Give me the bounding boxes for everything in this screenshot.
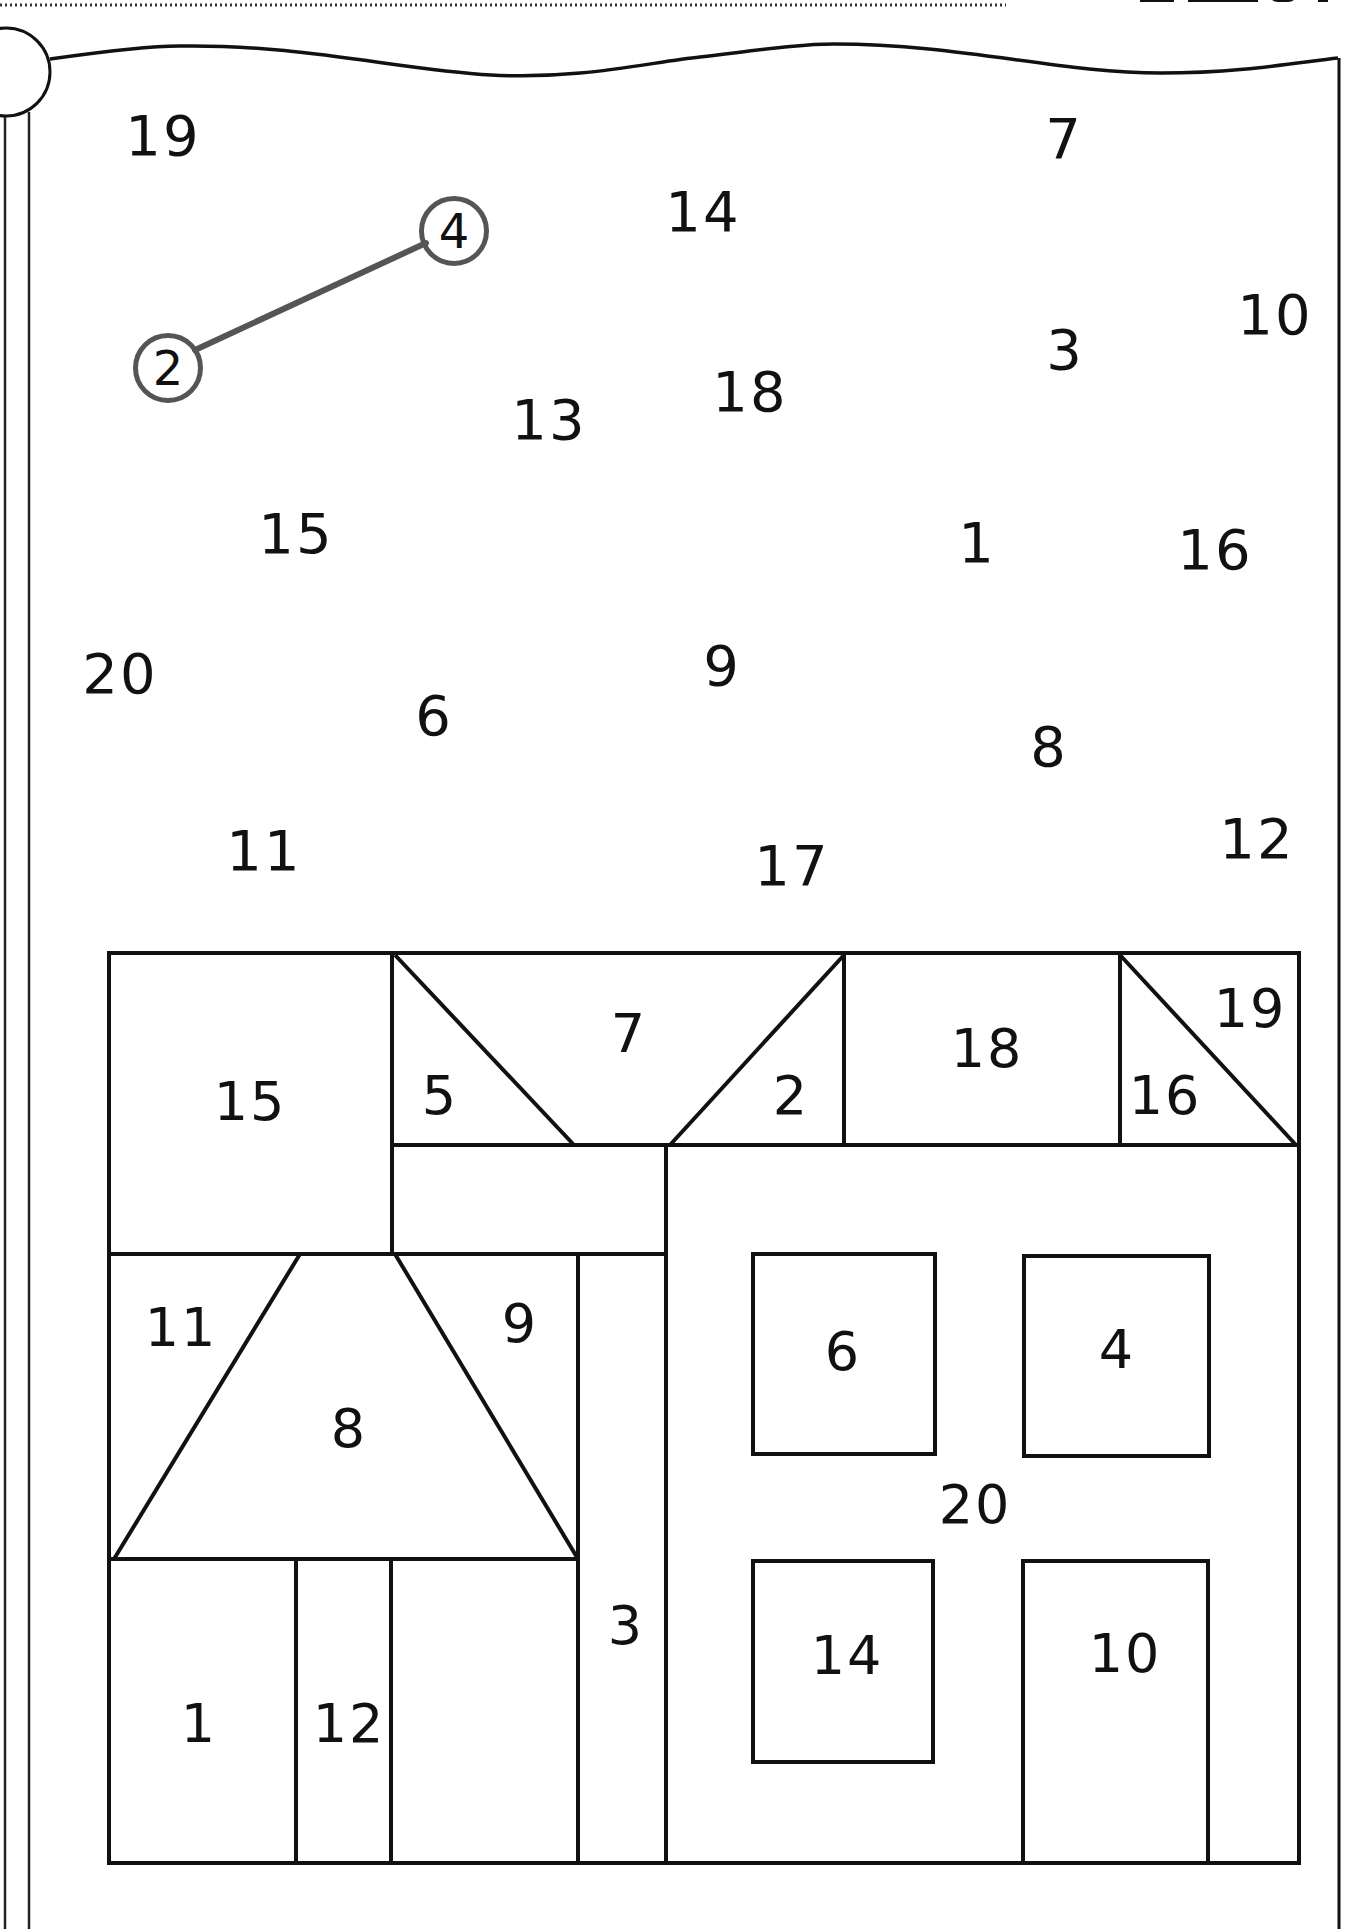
dot-number[interactable]: 3 [1046, 322, 1084, 378]
house-region[interactable]: 5 [422, 1069, 458, 1123]
dot-number[interactable]: 16 [1177, 522, 1252, 578]
house-region[interactable]: 9 [502, 1297, 538, 1351]
dot-number[interactable]: 11 [226, 823, 301, 879]
house-region[interactable]: 4 [1099, 1323, 1135, 1377]
dot-number[interactable]: 14 [665, 184, 740, 240]
dot-number[interactable]: 1 [958, 515, 996, 571]
dot-number[interactable]: 12 [1219, 811, 1294, 867]
dot-number[interactable]: 17 [754, 838, 829, 894]
example-connecting-line [195, 243, 426, 350]
dot-number[interactable]: 20 [82, 646, 157, 702]
house-region[interactable]: 2 [773, 1069, 809, 1123]
worksheet-page: 19 7 14 10 3 18 13 15 1 16 20 9 6 8 11 1… [0, 0, 1357, 1929]
dot-number[interactable]: 13 [511, 392, 586, 448]
house-region[interactable]: 8 [331, 1402, 367, 1456]
dot-number[interactable]: 10 [1237, 287, 1312, 343]
roof-diagonal-2 [670, 955, 844, 1145]
house-region[interactable]: 18 [951, 1022, 1024, 1076]
dot-number[interactable]: 7 [1045, 111, 1083, 167]
house-region[interactable]: 11 [145, 1301, 218, 1355]
trapezoid-right-side [395, 1254, 578, 1559]
circled-number-label: 4 [439, 207, 470, 255]
circled-number-2[interactable]: 2 [133, 333, 203, 403]
house-region[interactable]: 19 [1214, 982, 1287, 1036]
dot-number[interactable]: 19 [125, 108, 200, 164]
dot-number[interactable]: 9 [703, 638, 741, 694]
house-region[interactable]: 15 [214, 1075, 287, 1129]
dot-number[interactable]: 15 [258, 506, 333, 562]
dot-number[interactable]: 18 [712, 364, 787, 420]
house-region[interactable]: 1 [181, 1697, 217, 1751]
house-region[interactable]: 12 [313, 1697, 386, 1751]
house-region[interactable]: 7 [611, 1007, 647, 1061]
banner-wavy-edge [50, 44, 1338, 76]
circled-number-label: 2 [153, 344, 184, 392]
house-picture [109, 953, 1299, 1863]
dot-number[interactable]: 6 [415, 688, 453, 744]
house-region[interactable]: 6 [825, 1325, 861, 1379]
house-region[interactable]: 14 [811, 1629, 884, 1683]
circled-number-4[interactable]: 4 [419, 196, 489, 266]
house-region[interactable]: 3 [608, 1599, 644, 1653]
door-10 [1023, 1561, 1208, 1863]
flag-knob [0, 28, 50, 116]
house-region[interactable]: 20 [939, 1478, 1012, 1532]
dot-number[interactable]: 8 [1030, 719, 1068, 775]
house-region[interactable]: 10 [1089, 1627, 1162, 1681]
house-region[interactable]: 16 [1129, 1069, 1202, 1123]
